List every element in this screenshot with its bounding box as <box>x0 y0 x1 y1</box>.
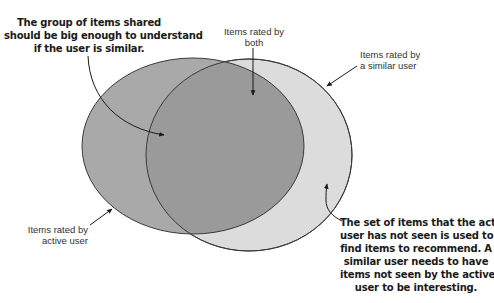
label-rated-by-both: Items rated by both <box>218 26 290 48</box>
callout-shared-group: The group of items shared should be big … <box>4 16 174 55</box>
label-rated-by-similar-user: Items rated by a similar user <box>360 49 420 71</box>
arrow-similar-user <box>327 66 357 86</box>
callout-not-seen-items: The set of items that the active user ha… <box>340 216 492 294</box>
arrow-active-user <box>90 209 112 225</box>
label-rated-by-active-user: Items rated by active user <box>10 224 88 246</box>
